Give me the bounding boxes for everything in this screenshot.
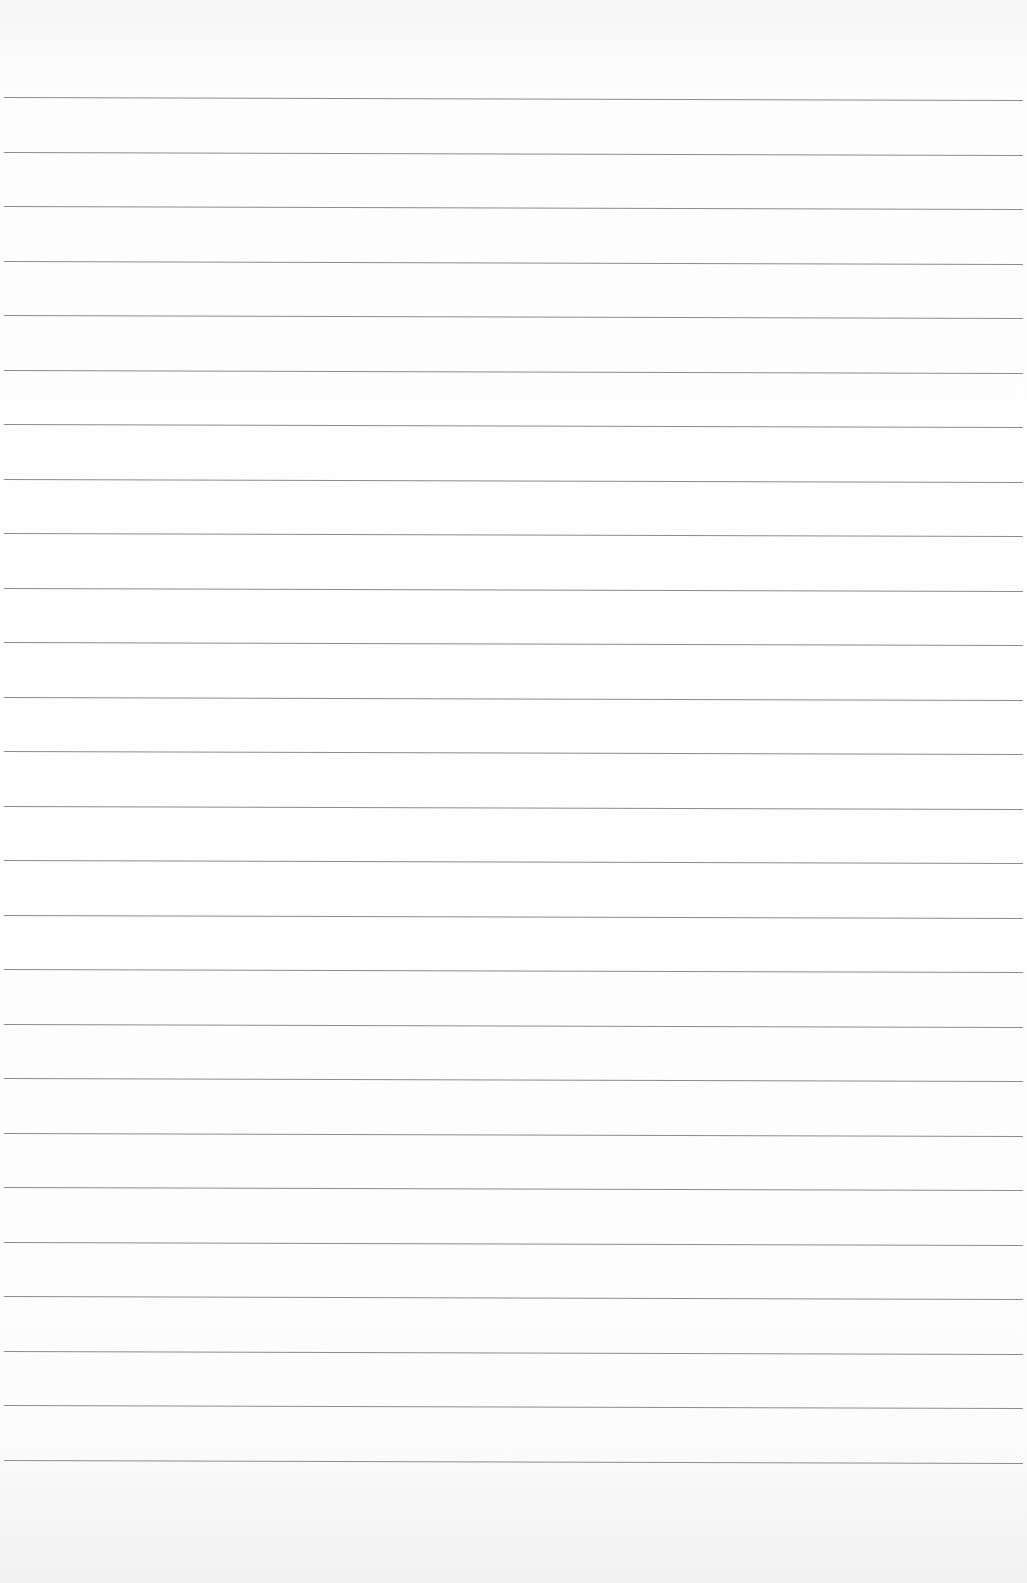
ruled-line bbox=[4, 315, 1023, 319]
ruled-line bbox=[4, 1187, 1023, 1191]
ruled-line bbox=[4, 806, 1023, 810]
ruled-line bbox=[4, 1296, 1023, 1300]
ruled-line bbox=[4, 751, 1023, 755]
ruled-line bbox=[4, 588, 1023, 592]
ruled-line bbox=[4, 479, 1023, 483]
ruled-line bbox=[4, 915, 1023, 919]
ruled-line bbox=[4, 370, 1023, 374]
ruled-line bbox=[4, 424, 1023, 428]
ruled-line bbox=[4, 1242, 1023, 1246]
ruled-line bbox=[4, 1351, 1023, 1355]
ruled-line bbox=[4, 697, 1023, 701]
ruled-line bbox=[4, 642, 1023, 646]
ruled-line bbox=[4, 860, 1023, 864]
ruled-line bbox=[4, 1405, 1023, 1409]
ruled-line bbox=[4, 1078, 1023, 1082]
ruled-line bbox=[4, 1024, 1023, 1028]
ruled-line bbox=[4, 206, 1023, 210]
ruled-line bbox=[4, 969, 1023, 973]
ruled-line bbox=[4, 261, 1023, 265]
lined-paper-sheet bbox=[0, 0, 1027, 1583]
ruled-line bbox=[4, 152, 1023, 156]
ruled-line bbox=[4, 1460, 1023, 1464]
ruled-line bbox=[4, 97, 1023, 101]
ruled-line bbox=[4, 533, 1023, 537]
ruled-line bbox=[4, 1133, 1023, 1137]
